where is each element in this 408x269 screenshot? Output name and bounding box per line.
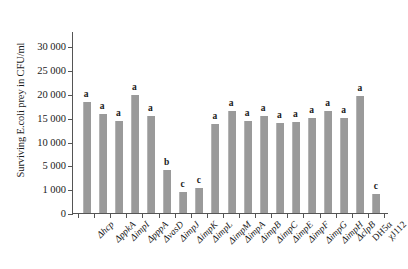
bar [228, 111, 236, 213]
significance-label: a [341, 106, 346, 116]
significance-label: b [164, 158, 169, 168]
bar [356, 96, 364, 213]
y-axis-title: Surviving E.coli prey in CFU/ml [14, 5, 28, 215]
bar [276, 123, 284, 213]
y-tick-mark [68, 190, 73, 191]
y-tick-label: 20 000 [37, 90, 66, 101]
y-tick-label: 15 000 [37, 114, 66, 125]
bar [308, 118, 316, 213]
significance-label: a [277, 111, 282, 121]
x-tick-mark [207, 214, 208, 218]
significance-label: a [261, 104, 266, 114]
x-tick-mark [175, 214, 176, 218]
significance-label: a [116, 109, 121, 119]
bar [324, 111, 332, 213]
x-tick-mark [94, 214, 95, 218]
bar [163, 170, 171, 213]
x-tick-mark [336, 214, 337, 218]
x-tick-mark [159, 214, 160, 218]
x-axis-line [72, 213, 388, 214]
bar [147, 116, 155, 213]
bar [372, 194, 380, 213]
y-tick-mark [68, 119, 73, 120]
x-tick-mark [368, 214, 369, 218]
significance-label: a [357, 84, 362, 94]
x-tick-mark [126, 214, 127, 218]
x-tick-mark [384, 214, 385, 218]
x-tick-mark [110, 214, 111, 218]
y-tick-mark [68, 166, 73, 167]
significance-label: a [148, 104, 153, 114]
y-tick-label: 30 000 [37, 42, 66, 53]
significance-label: a [309, 106, 314, 116]
x-tick-mark [239, 214, 240, 218]
significance-label: a [245, 109, 250, 119]
x-tick-mark [303, 214, 304, 218]
y-tick-label: 1 000 [42, 185, 66, 196]
y-tick-label: 5 000 [42, 161, 66, 172]
y-tick-label: 25 000 [37, 66, 66, 77]
y-tick-label: 0 [61, 209, 66, 220]
bar [83, 102, 91, 213]
bar [211, 124, 219, 213]
significance-label: a [325, 99, 330, 109]
y-tick-mark [68, 47, 73, 48]
bar [131, 95, 139, 213]
y-tick-mark [68, 71, 73, 72]
y-tick-label: 10 000 [37, 137, 66, 148]
significance-label: a [213, 112, 218, 122]
x-tick-mark [191, 214, 192, 218]
y-tick-mark [68, 143, 73, 144]
y-tick-mark [68, 214, 73, 215]
significance-label: a [84, 90, 89, 100]
significance-label: c [197, 176, 201, 186]
bar [179, 192, 187, 213]
bar [244, 121, 252, 213]
x-tick-mark [352, 214, 353, 218]
bar [260, 116, 268, 213]
x-tick-mark [142, 214, 143, 218]
significance-label: a [100, 102, 105, 112]
significance-label: a [132, 83, 137, 93]
bar [195, 188, 203, 213]
x-tick-mark [255, 214, 256, 218]
bar [340, 118, 348, 213]
significance-label: c [181, 180, 185, 190]
x-tick-mark [287, 214, 288, 218]
bar [99, 114, 107, 213]
plot-area: 01 0005 00010 00015 00020 00025 00030 00… [72, 32, 388, 214]
x-tick-mark [271, 214, 272, 218]
y-tick-mark [68, 95, 73, 96]
significance-label: a [293, 110, 298, 120]
y-axis-line [72, 32, 73, 214]
significance-label: c [374, 182, 378, 192]
bar [115, 121, 123, 213]
x-tick-mark [320, 214, 321, 218]
x-tick-mark [223, 214, 224, 218]
significance-label: a [229, 99, 234, 109]
bar [292, 122, 300, 213]
x-tick-mark [78, 214, 79, 218]
